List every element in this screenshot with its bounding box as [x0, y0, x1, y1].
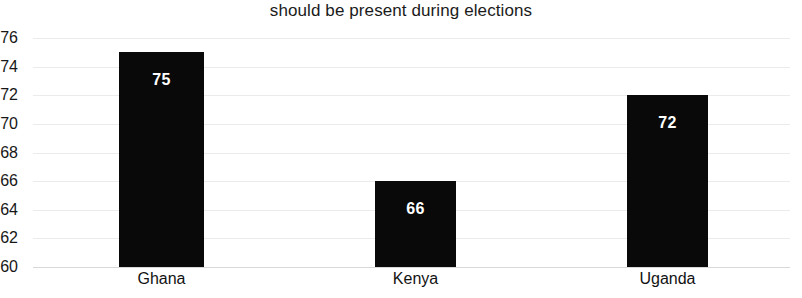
y-axis-tick-label: 64 [0, 202, 18, 218]
x-axis-tick-label-uganda: Uganda [627, 270, 708, 288]
bar-chart: should be present during elections 76747… [0, 0, 802, 298]
y-axis-tick-label: 70 [0, 116, 18, 132]
gridline [33, 38, 790, 39]
y-axis-tick-label: 74 [0, 59, 18, 75]
y-axis-tick-label: 68 [0, 145, 18, 161]
y-axis-tick-label: 66 [0, 173, 18, 189]
plot-area: 767472706866646260756672 [33, 38, 790, 267]
chart-title: should be present during elections [0, 1, 802, 21]
bar-ghana[interactable]: 75 [119, 52, 204, 267]
y-axis-tick-label: 62 [0, 230, 18, 246]
y-axis-tick-label: 72 [0, 87, 18, 103]
x-axis-tick-label-kenya: Kenya [375, 270, 456, 288]
bar-value-label: 72 [627, 114, 708, 132]
y-axis-tick-label: 76 [0, 30, 18, 46]
gridline [33, 267, 790, 268]
x-axis-tick-label-ghana: Ghana [119, 270, 204, 288]
bar-value-label: 75 [119, 71, 204, 89]
y-axis-tick-label: 60 [0, 259, 18, 275]
bar-uganda[interactable]: 72 [627, 95, 708, 267]
bar-value-label: 66 [375, 200, 456, 218]
bar-kenya[interactable]: 66 [375, 181, 456, 267]
